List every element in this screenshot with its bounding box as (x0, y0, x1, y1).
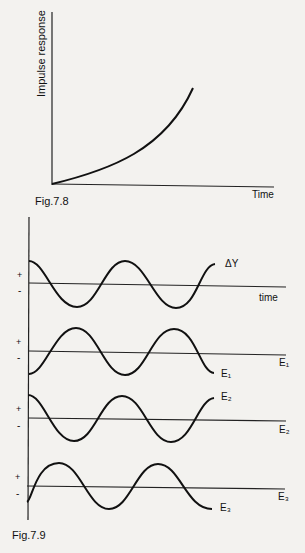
x-axis-label: Time (252, 189, 274, 200)
fig-7-9: + - ΔY time + - E₁ E₁ + - E₂ E₂ + - E₃ E… (12, 217, 290, 541)
baseline-e1 (29, 351, 286, 355)
figures-canvas: Impulse response Time Fig.7.8 + - ΔY tim… (0, 0, 305, 553)
axis-label-e2: E₂ (279, 424, 290, 435)
x-axis (52, 184, 274, 187)
plus-marker: + (15, 472, 20, 482)
fig-7-8: Impulse response Time Fig.7.8 (35, 10, 274, 207)
plus-marker: + (16, 337, 21, 347)
axis-label-time: time (259, 292, 278, 303)
curve-label-delta-y: ΔY (225, 258, 239, 269)
curve-label-e1: E₁ (221, 368, 232, 379)
baseline-e3 (27, 486, 285, 489)
baseline-e2 (28, 418, 286, 421)
impulse-response-curve (52, 88, 193, 184)
plus-marker: + (17, 270, 22, 280)
axis-label-e3: E₃ (278, 491, 289, 502)
fig-7-9-caption: Fig.7.9 (12, 529, 46, 541)
minus-marker: - (18, 285, 21, 296)
plus-marker: + (16, 404, 21, 414)
curve-label-e2: E₂ (221, 391, 232, 402)
y-axis-label: Impulse response (35, 10, 47, 97)
vertical-axis (28, 217, 29, 520)
baseline-time (29, 283, 286, 287)
fig-7-8-caption: Fig.7.8 (35, 195, 69, 207)
minus-marker: - (16, 488, 19, 499)
minus-marker: - (17, 352, 20, 363)
axis-label-e1: E₁ (279, 357, 290, 368)
curve-label-e3: E₃ (220, 502, 231, 513)
minus-marker: - (17, 420, 20, 431)
